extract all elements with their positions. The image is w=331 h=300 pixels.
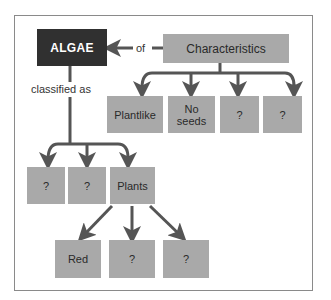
- plants-unknown-box-2: ?: [163, 240, 209, 278]
- classification-unknown-box-2: ?: [68, 167, 106, 204]
- plants-red-box: Red: [55, 240, 101, 278]
- classification-unknown-box-1: ?: [27, 167, 65, 204]
- characteristic-no-seeds-box: No seeds: [168, 96, 215, 133]
- classified-as-label: classified as: [30, 83, 92, 95]
- characteristic-unknown-box-2: ?: [263, 96, 302, 133]
- characteristic-plantlike-box: Plantlike: [107, 96, 163, 133]
- characteristic-unknown-box-1: ?: [220, 96, 259, 133]
- classification-plants-box: Plants: [110, 167, 155, 204]
- plants-unknown-box-1: ?: [109, 240, 155, 278]
- characteristics-box: Characteristics: [163, 34, 289, 63]
- of-label: of: [135, 42, 146, 54]
- algae-box: ALGAE: [37, 29, 107, 66]
